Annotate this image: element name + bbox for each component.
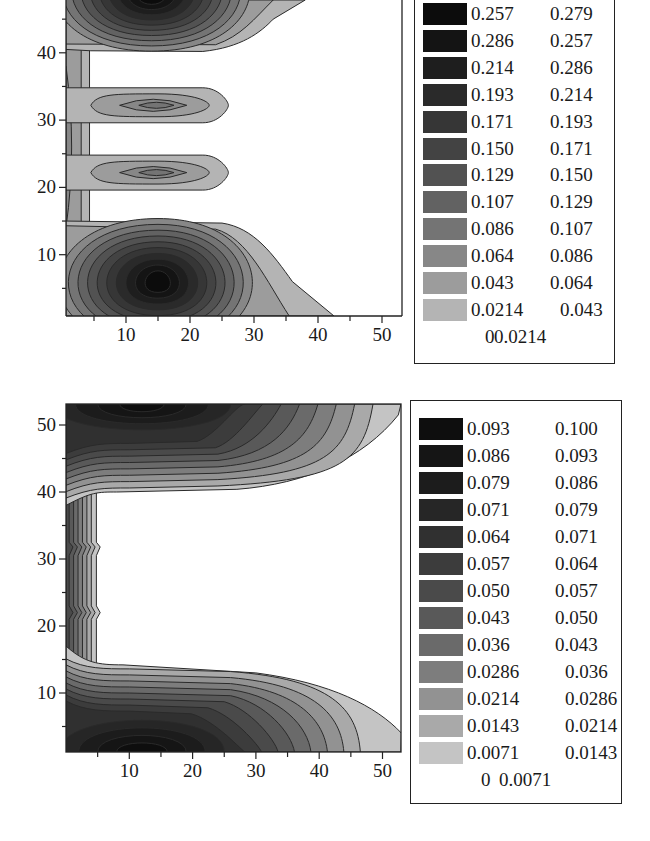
legend-range-high: 0.043 [555,634,598,656]
x-tick-label-20: 20 [183,761,202,781]
legend-range-high: 0.129 [550,191,593,213]
y-tick-label-10: 10 [26,683,56,703]
legend-range-low: 0.193 [471,84,514,106]
legend-range-low: 0.086 [467,445,510,467]
legend-range-high: 0.0071 [499,769,551,791]
legend-item: 0.02140.0286 [419,687,617,711]
legend-range-high: 0.0143 [565,742,617,764]
x-tick-label-30: 30 [246,761,265,781]
legend-item: 0.0710.079 [419,498,617,522]
legend-range-high: 0.050 [555,607,598,629]
legend-swatch [423,30,467,52]
legend-range-high: 0.057 [555,580,598,602]
legend-swatch [419,580,463,602]
legend-range-low: 0.043 [471,272,514,294]
legend-range-high: 0.150 [550,164,593,186]
legend-item: 00.0214 [423,325,610,349]
y-tick-label-50: 50 [26,415,56,435]
legend-range-low: 0.086 [471,218,514,240]
legend-swatch [423,299,467,321]
legend-range-high: 0.0286 [565,688,617,710]
y-tick-label-30: 30 [26,110,56,130]
x-tick-label-10: 10 [120,761,139,781]
legend-range-low: 0.257 [471,3,514,25]
legend-swatch [419,472,463,494]
legend-range-low: 0.107 [471,191,514,213]
legend-range-high: 0.193 [550,111,593,133]
legend-item: 0.0430.050 [419,606,617,630]
legend-item: 0.2570.279 [423,2,610,26]
legend-swatch [423,57,467,79]
legend-range-high: 0.286 [550,57,593,79]
legend-swatch [423,111,467,133]
legend-swatch [423,84,467,106]
legend-range-high: 0.257 [550,30,593,52]
legend-item: 0.0860.093 [419,444,617,468]
x-tick-label-20: 20 [181,325,200,345]
legend-item: 0.0360.043 [419,633,617,657]
legend-item: 0.0640.071 [419,525,617,549]
legend-range-high: 0.071 [555,526,598,548]
y-tick-label-20: 20 [26,177,56,197]
contour-plot-2-fill [53,404,401,752]
legend-range-high: 0.100 [555,418,598,440]
y-tick-label-40: 40 [26,482,56,502]
legend-swatch [423,245,467,267]
legend-range-low: 0.057 [467,553,510,575]
legend-range-low: 0.050 [467,580,510,602]
legend-item: 0.01430.0214 [419,714,617,738]
legend-swatch [423,191,467,213]
legend-range-low: 0.0071 [467,742,519,764]
legend-item: 0.0640.086 [423,244,610,268]
legend-range-low: 0.064 [471,245,514,267]
y-tick-label-20: 20 [26,616,56,636]
legend-range-low: 0.129 [471,164,514,186]
legend-range-high: 0.064 [550,272,593,294]
x-tick-label-50: 50 [373,325,392,345]
legend-range-low: 0.043 [467,607,510,629]
axis-ticks [59,19,383,759]
legend-range-low: 0 [481,769,491,791]
legend-plot-2: 0.0930.1000.0860.0930.0790.0860.0710.079… [410,400,622,804]
legend-swatch [423,138,467,160]
legend-item: 0.1070.129 [423,190,610,214]
contour-plot-1-fill [53,0,334,345]
legend-swatch [419,607,463,629]
legend-item: 0.0430.064 [423,271,610,295]
legend-range-high: 0.171 [550,138,593,160]
legend-item: 0.0500.057 [419,579,617,603]
legend-swatch [419,742,463,764]
legend-swatch [419,769,463,791]
legend-range-low: 0.036 [467,634,510,656]
legend-swatch [423,218,467,240]
legend-range-high: 0.086 [550,245,593,267]
legend-item: 00.0071 [419,768,617,792]
legend-range-high: 0.214 [550,84,593,106]
legend-swatch [419,499,463,521]
y-tick-label-40: 40 [26,43,56,63]
legend-range-low: 0.0286 [467,661,519,683]
legend-item: 0.0860.107 [423,217,610,241]
legend-item: 0.1930.214 [423,83,610,107]
legend-item: 0.1500.171 [423,137,610,161]
legend-item: 0.0570.064 [419,552,617,576]
legend-item: 0.1290.150 [423,163,610,187]
x-tick-label-30: 30 [245,325,264,345]
legend-range-low: 0.079 [467,472,510,494]
legend-swatch [419,445,463,467]
legend-range-high: 0.043 [560,299,603,321]
legend-item: 0.0790.086 [419,471,617,495]
legend-swatch [419,661,463,683]
legend-plot-1: 0.2570.2790.2860.2570.2140.2860.1930.214… [414,0,615,364]
legend-range-high: 0.0214 [565,715,617,737]
legend-swatch [423,164,467,186]
legend-item: 0.02140.043 [423,298,610,322]
legend-item: 0.02860.036 [419,660,617,684]
contour-bottom-11 [145,271,170,293]
legend-swatch [423,3,467,25]
legend-swatch [419,553,463,575]
legend-item: 0.2140.286 [423,56,610,80]
legend-range-low: 0.171 [471,111,514,133]
legend-range-high: 0.064 [555,553,598,575]
legend-range-low: 0.0214 [467,688,519,710]
